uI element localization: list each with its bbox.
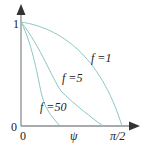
y-tick-one: 1 — [13, 17, 19, 31]
x-tick-pi-over-2: π/2 — [110, 129, 125, 143]
annotation-f50: f =50 — [40, 100, 66, 114]
x-tick-zero: 0 — [20, 129, 26, 143]
x-axis-label-psi: ψ — [70, 129, 78, 143]
annotation-f1: f =1 — [91, 51, 111, 65]
y-tick-zero: 0 — [11, 120, 17, 134]
chart: 1 0 0 ψ π/2 f =1 f =5 f =50 — [0, 0, 150, 149]
x-axis-arrow-icon — [129, 122, 140, 131]
axes — [21, 12, 132, 126]
y-axis-arrow-icon — [17, 4, 26, 15]
annotation-f5: f =5 — [62, 71, 82, 85]
